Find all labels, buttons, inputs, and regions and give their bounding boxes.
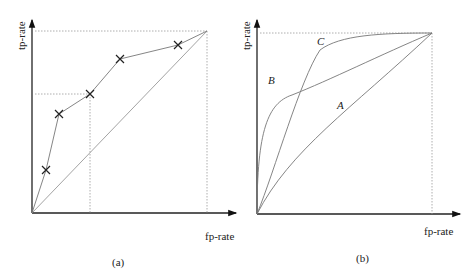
x-axis-label: fp-rate bbox=[205, 230, 234, 242]
panel-caption: (b) bbox=[356, 252, 369, 265]
roc-markers bbox=[42, 41, 182, 174]
curve-b bbox=[257, 33, 432, 214]
x-marker-icon bbox=[55, 110, 63, 118]
panel-a: tp-rate fp-rate (a) bbox=[15, 20, 236, 269]
x-axis-label: fp-rate bbox=[424, 225, 453, 237]
x-marker-icon bbox=[174, 41, 182, 49]
curve-label-b: B bbox=[268, 74, 275, 86]
y-axis-label: tp-rate bbox=[15, 21, 27, 50]
panel-caption: (a) bbox=[112, 256, 125, 269]
curve-c bbox=[257, 33, 432, 214]
y-axis-label: tp-rate bbox=[240, 21, 252, 50]
curve-a bbox=[257, 33, 432, 214]
curve-label-a: A bbox=[336, 99, 344, 111]
curve-label-c: C bbox=[317, 35, 325, 47]
x-marker-icon bbox=[116, 55, 124, 63]
roc-figure: tp-rate fp-rate (a) C B A tp-rate fp-rat… bbox=[0, 0, 474, 279]
panel-b: C B A tp-rate fp-rate (b) bbox=[240, 20, 460, 265]
x-marker-icon bbox=[42, 166, 50, 174]
